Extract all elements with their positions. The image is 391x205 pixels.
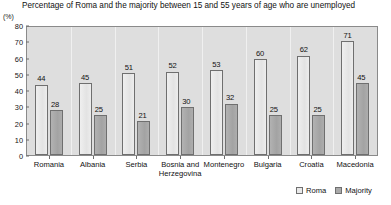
bar-roma-5[interactable] — [254, 59, 267, 155]
bar-value-label: 53 — [208, 61, 225, 69]
bar-value-label: 45 — [77, 74, 94, 82]
bar-roma-3[interactable] — [166, 72, 179, 155]
bar-value-label: 71 — [339, 32, 356, 40]
legend-label-majority: Majority — [345, 186, 372, 195]
y-axis-tick-label: 70 — [0, 38, 26, 47]
x-axis-tick-mark — [136, 156, 137, 159]
group-separator — [290, 27, 291, 155]
group-separator — [158, 27, 159, 155]
x-axis-tick-mark — [49, 156, 50, 159]
legend-item-roma[interactable]: Roma — [296, 186, 326, 195]
bar-roma-6[interactable] — [297, 56, 310, 155]
x-axis-tick-mark — [93, 156, 94, 159]
bar-value-label: 60 — [252, 50, 269, 58]
y-axis-tick-label: 40 — [0, 87, 26, 96]
y-axis-tick-label: 20 — [0, 119, 26, 128]
bar-value-label: 25 — [270, 106, 278, 114]
chart-root: Percentage of Roma and the majority betw… — [0, 0, 391, 205]
bar-value-label: 30 — [182, 98, 190, 106]
x-axis-tick-mark — [224, 156, 225, 159]
group-separator — [71, 27, 72, 155]
bar-majority-0[interactable] — [50, 110, 63, 155]
x-axis-tick-mark — [268, 156, 269, 159]
bar-majority-5[interactable] — [269, 115, 282, 155]
group-separator — [202, 27, 203, 155]
bar-roma-7[interactable] — [341, 41, 354, 155]
bar-roma-0[interactable] — [35, 85, 48, 155]
x-axis-tick-mark — [311, 156, 312, 159]
bar-value-label: 21 — [138, 112, 146, 120]
legend-label-roma: Roma — [306, 186, 326, 195]
bar-majority-7[interactable] — [356, 83, 369, 155]
x-axis-tick-mark — [180, 156, 181, 159]
bars-layer: 44284525512152305332602562257145 — [27, 27, 377, 155]
group-separator — [333, 27, 334, 155]
bar-value-label: 52 — [164, 62, 181, 70]
group-separator — [115, 27, 116, 155]
x-axis-label: Macedonia — [326, 160, 384, 169]
bar-value-label: 25 — [313, 106, 321, 114]
bar-majority-1[interactable] — [94, 115, 107, 155]
group-separator — [246, 27, 247, 155]
bar-roma-1[interactable] — [79, 83, 92, 155]
bar-value-label: 32 — [226, 94, 234, 102]
bar-value-label: 62 — [295, 46, 312, 54]
bar-value-label: 51 — [120, 64, 137, 72]
y-axis-tick-mark — [26, 156, 29, 157]
legend-swatch-majority-icon — [335, 187, 342, 194]
bar-value-label: 28 — [51, 101, 59, 109]
x-axis-tick-mark — [355, 156, 356, 159]
bar-roma-2[interactable] — [122, 73, 135, 155]
chart-legend: Roma Majority — [296, 186, 372, 195]
y-axis-tick-label: 80 — [0, 22, 26, 31]
y-axis-tick-label: 10 — [0, 135, 26, 144]
y-axis-tick-label: 30 — [0, 103, 26, 112]
bar-roma-4[interactable] — [210, 70, 223, 155]
legend-swatch-roma-icon — [296, 187, 303, 194]
bar-value-label: 45 — [357, 74, 365, 82]
bar-majority-3[interactable] — [181, 107, 194, 155]
bar-majority-4[interactable] — [225, 104, 238, 155]
y-axis-unit-label: (%) — [3, 13, 14, 20]
chart-title: Percentage of Roma and the majority betw… — [22, 1, 390, 11]
y-axis-tick-label: 50 — [0, 70, 26, 79]
y-axis-tick-label: 60 — [0, 54, 26, 63]
bar-majority-2[interactable] — [137, 121, 150, 155]
bar-value-label: 44 — [33, 75, 50, 83]
bar-majority-6[interactable] — [312, 115, 325, 155]
legend-item-majority[interactable]: Majority — [335, 186, 372, 195]
bar-value-label: 25 — [95, 106, 103, 114]
